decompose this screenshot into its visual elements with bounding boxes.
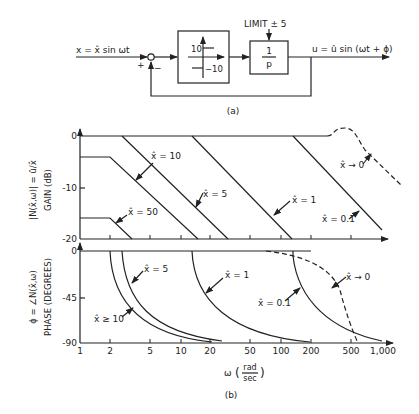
x-tick-labels: 1 2 5 10 20 50 100 200 500 1,000	[77, 346, 396, 356]
output-label: u = û sin (ωt + ϕ)	[312, 44, 393, 54]
gain-label-x1: x̂ = 1	[292, 195, 316, 205]
caption-a: (a)	[227, 106, 240, 116]
gain-ytick-label: -10	[62, 183, 77, 193]
gain-curve-x50	[80, 218, 132, 239]
phase-leader-x5	[132, 271, 143, 283]
gain-curve-x0	[327, 128, 402, 186]
phase-curve-x0	[266, 251, 358, 343]
input-label: x = x̂ sin ωt	[76, 45, 130, 55]
gain-curve-x10	[80, 157, 198, 239]
summing-junction	[148, 54, 154, 60]
gain-leader-x50	[116, 215, 127, 223]
x-axis-label: ω ( rad sec )	[224, 363, 265, 383]
phase-ytick-label: -45	[62, 293, 77, 303]
relay-lower-label: −10	[205, 64, 223, 74]
phase-ylabel-units: PHASE (DEGREES)	[43, 258, 53, 336]
feedback-path	[151, 57, 311, 96]
svg-text:ω: ω	[224, 368, 232, 378]
gain-ytick-label: 0	[71, 131, 77, 141]
gain-label-x0: x̂ → 0	[340, 160, 365, 170]
svg-text:200: 200	[302, 346, 319, 356]
gain-label-x10: x̂ = 10	[151, 151, 181, 161]
relay-upper-label: 10	[191, 44, 202, 54]
phase-ylabel-formula: ϕ = ∠N(x̂,ω)	[28, 270, 38, 324]
gain-leader-x5	[196, 193, 203, 207]
phase-label-x1: x̂ = 1	[225, 270, 249, 280]
phase-leader-x10	[122, 308, 133, 317]
svg-text:5: 5	[147, 346, 153, 356]
gain-leader-x0	[363, 154, 371, 164]
gain-ylabel-formula: |N(x̂,ω)| = û/x̂	[28, 160, 38, 219]
phase-leader-x1	[206, 278, 223, 293]
gain-ylabel-units: GAIN (dB)	[43, 169, 53, 211]
svg-text:10: 10	[175, 346, 187, 356]
phase-label-x5: x̂ = 5	[144, 264, 168, 274]
gain-leader-x1	[274, 201, 290, 215]
phase-ytick-label: 0	[71, 246, 77, 256]
gain-leader-x10	[136, 163, 153, 180]
svg-text:sec: sec	[243, 374, 257, 383]
gain-chart: 0 -10 -20 |N(x̂,ω)| = û/x̂ GAIN (dB) x̂ …	[28, 128, 402, 244]
svg-text:rad: rad	[243, 363, 256, 372]
phase-curve-x1	[192, 251, 310, 342]
svg-text:1: 1	[77, 346, 83, 356]
phase-ytick-label: -90	[62, 338, 77, 348]
phase-label-x10: x̂ ≥ 10	[94, 314, 124, 324]
caption-b: (b)	[225, 390, 238, 400]
svg-text:): )	[260, 366, 265, 380]
phase-label-x0: x̂ → 0	[346, 272, 371, 282]
integrator-numerator: 1	[266, 46, 272, 56]
svg-text:500: 500	[342, 346, 359, 356]
gain-label-x5: x̂ = 5	[203, 189, 227, 199]
gain-curve-x1	[192, 136, 292, 239]
svg-text:(: (	[235, 366, 240, 380]
phase-chart: 0 -45 -90 1 2 5 10 20 50 100 200 500 1,0…	[28, 243, 396, 400]
svg-text:100: 100	[272, 346, 289, 356]
svg-text:1,000: 1,000	[370, 346, 396, 356]
block-diagram: x = x̂ sin ωt + − 10 −10 1 p LIMIT ± 5 u…	[76, 19, 393, 116]
gain-label-x50: x̂ = 50	[128, 207, 158, 217]
limit-label: LIMIT ± 5	[244, 19, 287, 29]
minus-sign: −	[154, 63, 162, 73]
svg-text:20: 20	[204, 346, 216, 356]
diagram-canvas: x = x̂ sin ωt + − 10 −10 1 p LIMIT ± 5 u…	[0, 0, 419, 414]
svg-text:2: 2	[107, 346, 113, 356]
gain-label-x01: x̂ = 0.1	[322, 214, 355, 224]
svg-text:50: 50	[244, 346, 256, 356]
phase-leader-x01	[285, 288, 300, 301]
phase-curve-x01	[293, 251, 382, 341]
plus-sign: +	[137, 60, 145, 70]
gain-ytick-label: -20	[62, 234, 77, 244]
integrator-denominator: p	[266, 59, 272, 69]
